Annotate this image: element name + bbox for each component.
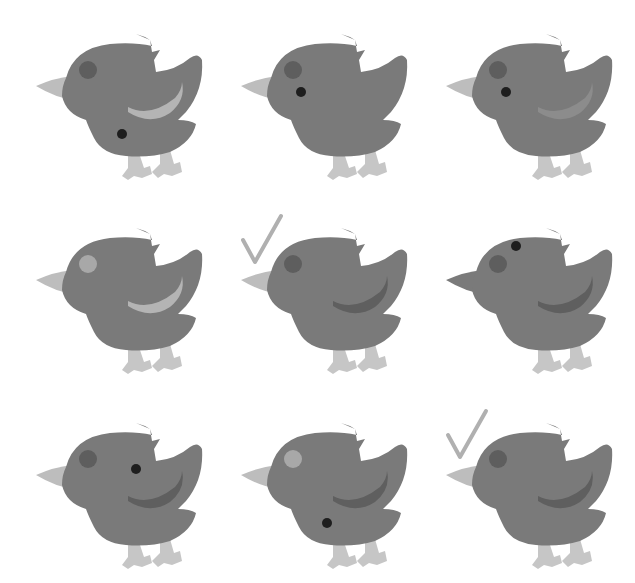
cheek-icon bbox=[489, 255, 507, 273]
bird-7[interactable] bbox=[10, 389, 220, 583]
checkmark-icon bbox=[243, 216, 281, 262]
bird-3[interactable] bbox=[420, 0, 630, 194]
bird-4[interactable] bbox=[10, 194, 220, 388]
bird-body bbox=[267, 34, 407, 157]
eye-icon bbox=[511, 241, 521, 251]
cheek-icon bbox=[79, 61, 97, 79]
cheek-icon bbox=[489, 450, 507, 468]
cheek-icon bbox=[489, 61, 507, 79]
cheek-icon bbox=[79, 450, 97, 468]
bird-grid bbox=[0, 0, 635, 583]
bird-2[interactable] bbox=[215, 0, 425, 194]
bird-9[interactable] bbox=[420, 389, 630, 583]
eye-icon bbox=[501, 87, 511, 97]
eye-icon bbox=[296, 87, 306, 97]
bird-8[interactable] bbox=[215, 389, 425, 583]
bird-5[interactable] bbox=[215, 194, 425, 388]
bird-6[interactable] bbox=[420, 194, 630, 388]
cheek-icon bbox=[79, 255, 97, 273]
cheek-icon bbox=[284, 61, 302, 79]
eye-icon bbox=[131, 464, 141, 474]
cheek-icon bbox=[284, 450, 302, 468]
cheek-icon bbox=[284, 255, 302, 273]
checkmark-icon bbox=[448, 411, 486, 457]
eye-icon bbox=[322, 518, 332, 528]
eye-icon bbox=[117, 129, 127, 139]
bird-1[interactable] bbox=[10, 0, 220, 194]
